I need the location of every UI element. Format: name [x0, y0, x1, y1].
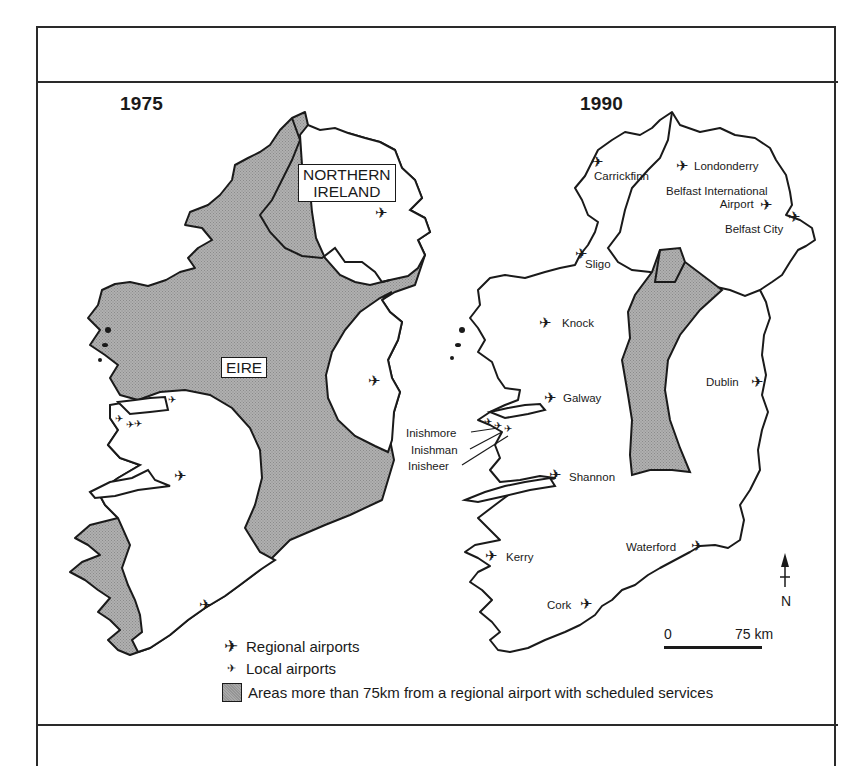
- local-airport-icon: ✈: [168, 395, 176, 405]
- local-airport-icon: ✈: [134, 419, 142, 429]
- legend-label-local: Local airports: [246, 660, 336, 677]
- regional-airport-icon: ✈: [222, 636, 240, 657]
- regional-airport-icon: ✈: [676, 158, 689, 173]
- shaded-area-swatch-icon: [222, 683, 242, 702]
- scale-start-label: 0: [664, 626, 672, 642]
- local-airport-icon: ✈: [115, 414, 123, 424]
- regional-airport-icon: ✈: [375, 205, 388, 220]
- scale-bar: [664, 646, 762, 649]
- north-label: N: [781, 593, 791, 609]
- regional-airport-icon: ✈: [751, 374, 764, 389]
- regional-airport-icon: ✈: [174, 468, 187, 483]
- northern-ireland-label-line2: IRELAND: [303, 183, 391, 200]
- regional-airport-icon: ✈: [591, 154, 604, 169]
- local-airport-icon: ✈: [504, 424, 512, 434]
- place-label-belfast-city: Belfast City: [725, 223, 783, 236]
- place-label-dublin: Dublin: [706, 376, 739, 389]
- place-label-sligo: Sligo: [585, 258, 611, 271]
- legend-label-shaded: Areas more than 75km from a regional air…: [248, 684, 713, 701]
- legend-item-local: ✈ Local airports: [222, 660, 336, 677]
- place-label-inishman: Inishman: [411, 444, 458, 457]
- regional-airport-icon: ✈: [544, 390, 557, 405]
- regional-airport-icon: ✈: [549, 467, 562, 482]
- regional-airport-icon: ✈: [788, 209, 801, 224]
- legend-item-shaded: Areas more than 75km from a regional air…: [222, 683, 713, 702]
- northern-ireland-label-line1: NORTHERN: [303, 166, 391, 183]
- place-label-galway: Galway: [563, 392, 601, 405]
- place-label-knock: Knock: [562, 317, 594, 330]
- legend-label-regional: Regional airports: [246, 638, 359, 655]
- place-label-inisheer: Inisheer: [408, 460, 449, 473]
- place-label-londonderry: Londonderry: [694, 160, 759, 173]
- local-airport-icon: ✈: [126, 420, 134, 430]
- northern-ireland-label: NORTHERN IRELAND: [298, 164, 396, 202]
- place-label-shannon: Shannon: [569, 471, 615, 484]
- scale-end-label: 75 km: [735, 626, 773, 642]
- place-label-kerry: Kerry: [506, 551, 533, 564]
- local-airport-icon: ✈: [484, 417, 492, 427]
- place-label-carrickfinn: Carrickfinn: [594, 170, 649, 183]
- local-airport-icon: ✈: [222, 662, 240, 675]
- regional-airport-icon: ✈: [580, 596, 593, 611]
- north-arrow: [780, 553, 790, 587]
- local-airport-icon: ✈: [494, 421, 502, 431]
- place-label-belfast-international-airport: Belfast InternationalAirport: [666, 185, 768, 211]
- regional-airport-icon: ✈: [691, 538, 704, 553]
- eire-label: EIRE: [221, 357, 267, 378]
- eire-label-text: EIRE: [226, 359, 262, 376]
- regional-airport-icon: ✈: [199, 597, 212, 612]
- legend-item-regional: ✈ Regional airports: [222, 636, 359, 657]
- regional-airport-icon: ✈: [539, 315, 552, 330]
- regional-airport-icon: ✈: [485, 548, 498, 563]
- place-label-cork: Cork: [547, 599, 571, 612]
- place-label-waterford: Waterford: [626, 541, 676, 554]
- place-label-inishmore: Inishmore: [406, 427, 457, 440]
- regional-airport-icon: ✈: [368, 373, 381, 388]
